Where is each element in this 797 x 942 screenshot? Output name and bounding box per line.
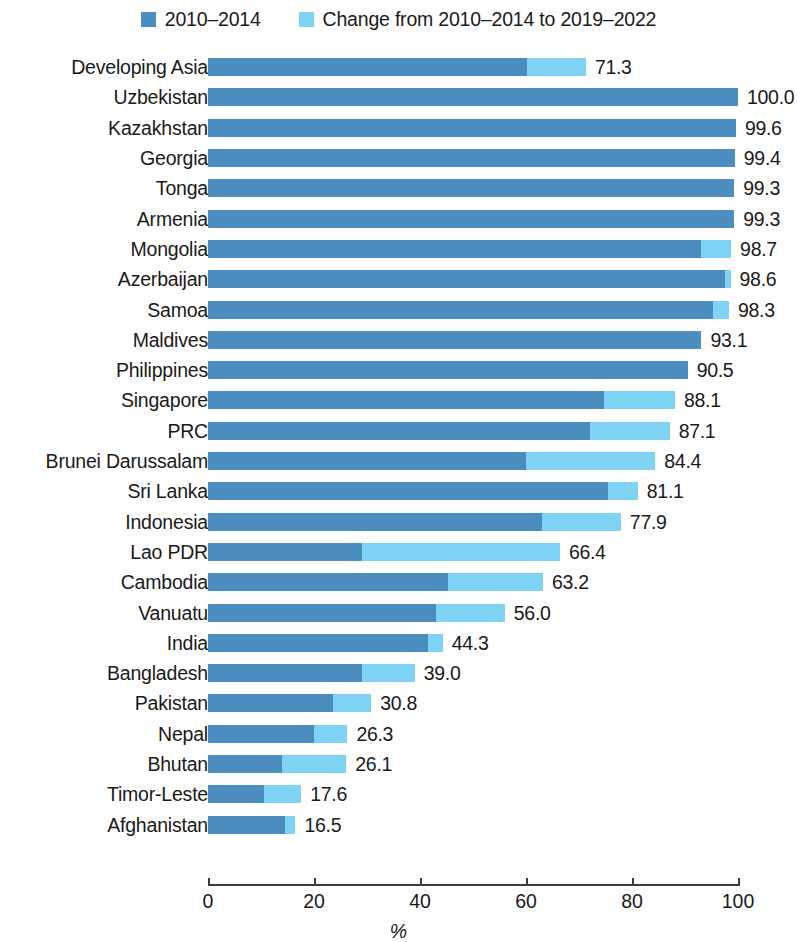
- stacked-bar: [208, 452, 655, 470]
- stacked-bar: [208, 604, 505, 622]
- x-axis-tick-label: 60: [515, 890, 537, 913]
- legend-label-baseline: 2010–2014: [165, 8, 261, 31]
- category-label: Singapore: [121, 389, 208, 412]
- category-label: Sri Lanka: [127, 480, 208, 503]
- bar-value-label: 93.1: [710, 328, 747, 351]
- bar-segment-baseline: [208, 210, 734, 228]
- bar-row: Timor-Leste17.6: [0, 779, 797, 809]
- bar-value-label: 99.6: [745, 116, 782, 139]
- x-axis-tick-label: 100: [722, 890, 755, 913]
- stacked-bar: [208, 664, 415, 682]
- bar-row: Developing Asia71.3: [0, 52, 797, 82]
- bar-segment-baseline: [208, 270, 725, 288]
- bar-segment-change: [590, 422, 670, 440]
- bar-segment-change: [542, 513, 621, 531]
- bar-value-label: 66.4: [569, 540, 606, 563]
- bar-row: Armenia99.3: [0, 204, 797, 234]
- bar-row: Georgia99.4: [0, 143, 797, 173]
- chart-legend: 2010–2014 Change from 2010–2014 to 2019–…: [0, 8, 797, 31]
- stacked-bar: [208, 725, 347, 743]
- bar-segment-baseline: [208, 816, 285, 834]
- category-label: Pakistan: [135, 692, 208, 715]
- bar-segment-baseline: [208, 452, 526, 470]
- bar-segment-change: [362, 664, 415, 682]
- category-label: Timor-Leste: [107, 783, 208, 806]
- bar-value-label: 56.0: [514, 601, 551, 624]
- bar-segment-baseline: [208, 361, 688, 379]
- stacked-bar: [208, 301, 729, 319]
- bar-value-label: 88.1: [684, 389, 721, 412]
- stacked-bar: [208, 785, 301, 803]
- category-label: Uzbekistan: [114, 86, 208, 109]
- x-axis-line: [208, 884, 738, 886]
- legend-entry-change: Change from 2010–2014 to 2019–2022: [299, 8, 657, 31]
- bar-value-label: 39.0: [424, 662, 461, 685]
- category-label: Bangladesh: [107, 662, 208, 685]
- bar-segment-baseline: [208, 725, 314, 743]
- category-label: Bhutan: [147, 753, 208, 776]
- bar-value-label: 77.9: [630, 510, 667, 533]
- category-label: Philippines: [116, 359, 208, 382]
- bar-value-label: 16.5: [304, 813, 341, 836]
- bar-row: Bangladesh39.0: [0, 658, 797, 688]
- bar-row: PRC87.1: [0, 416, 797, 446]
- category-label: Cambodia: [121, 571, 208, 594]
- bar-value-label: 100.0: [747, 86, 794, 109]
- bar-segment-baseline: [208, 422, 590, 440]
- category-label: Kazakhstan: [108, 116, 208, 139]
- bar-segment-change: [448, 573, 543, 591]
- category-label: Lao PDR: [130, 540, 208, 563]
- stacked-bar: [208, 513, 621, 531]
- stacked-bar: [208, 422, 670, 440]
- category-label: Maldives: [133, 328, 208, 351]
- bar-value-label: 26.3: [356, 722, 393, 745]
- stacked-bar: [208, 634, 443, 652]
- stacked-bar: [208, 240, 731, 258]
- stacked-bar: [208, 543, 560, 561]
- bar-segment-baseline: [208, 88, 738, 106]
- stacked-bar: [208, 694, 371, 712]
- stacked-bar: [208, 391, 675, 409]
- bar-value-label: 63.2: [552, 571, 589, 594]
- bar-row: Bhutan26.1: [0, 749, 797, 779]
- stacked-bar: [208, 482, 638, 500]
- stacked-bar: [208, 361, 688, 379]
- stacked-bar: [208, 179, 734, 197]
- x-axis-tick-label: 0: [203, 890, 214, 913]
- bar-segment-baseline: [208, 573, 448, 591]
- bar-row: Singapore88.1: [0, 385, 797, 415]
- stacked-bar: [208, 88, 738, 106]
- category-label: Mongolia: [130, 237, 208, 260]
- bar-value-label: 30.8: [380, 692, 417, 715]
- category-label: PRC: [167, 419, 208, 442]
- bar-value-label: 44.3: [452, 631, 489, 654]
- square-swatch-icon: [141, 12, 156, 27]
- bar-row: India44.3: [0, 628, 797, 658]
- x-axis-tick-mark: [314, 878, 316, 886]
- category-label: Azerbaijan: [118, 268, 208, 291]
- bar-row: Philippines90.5: [0, 355, 797, 385]
- category-label: Vanuatu: [138, 601, 208, 624]
- stacked-bar: [208, 58, 586, 76]
- bar-segment-change: [333, 694, 372, 712]
- bar-row: Uzbekistan100.0: [0, 82, 797, 112]
- bar-segment-baseline: [208, 119, 736, 137]
- stacked-bar: [208, 755, 346, 773]
- bar-segment-baseline: [208, 391, 604, 409]
- bar-segment-baseline: [208, 785, 264, 803]
- stacked-bar: [208, 210, 734, 228]
- bar-segment-change: [701, 240, 731, 258]
- bar-segment-change: [314, 725, 347, 743]
- bar-segment-change: [608, 482, 638, 500]
- x-axis-tick-mark: [632, 878, 634, 886]
- bar-segment-baseline: [208, 179, 734, 197]
- category-label: Developing Asia: [71, 56, 208, 79]
- bar-segment-baseline: [208, 331, 701, 349]
- bar-value-label: 90.5: [697, 359, 734, 382]
- x-axis-tick-mark: [526, 878, 528, 886]
- bar-segment-change: [604, 391, 675, 409]
- bar-segment-change: [725, 270, 731, 288]
- x-axis-tick-label: 80: [621, 890, 643, 913]
- bar-row: Azerbaijan98.6: [0, 264, 797, 294]
